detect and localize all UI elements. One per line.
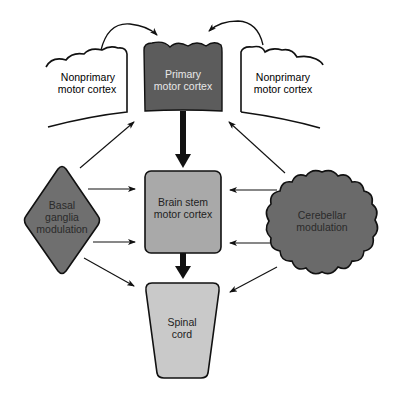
- brain-stem-label-2: motor cortex: [154, 208, 213, 220]
- node-cerebellar: Cerebellar modulation: [266, 171, 377, 274]
- nonprimary-left-label-1: Nonprimary: [61, 71, 116, 83]
- basal-ganglia-label-2: ganglia: [45, 211, 79, 223]
- cerebellar-label-2: modulation: [296, 221, 348, 233]
- motor-system-diagram: Nonprimary motor cortex Nonprimary motor…: [0, 0, 399, 400]
- primary-label-1: Primary: [165, 68, 202, 80]
- node-basal-ganglia: Basal ganglia modulation: [25, 167, 100, 274]
- nonprimary-left-label-2: motor cortex: [58, 83, 117, 95]
- spinal-cord-label-2: cord: [172, 328, 193, 340]
- primary-label-2: motor cortex: [154, 80, 213, 92]
- brain-stem-label-1: Brain stem: [158, 196, 208, 208]
- arrow-cerebellar-to-spinal: [230, 267, 277, 292]
- arrow-basal-to-primary: [80, 122, 134, 168]
- node-nonprimary-left: Nonprimary motor cortex: [46, 47, 127, 127]
- nonprimary-right-label-2: motor cortex: [254, 83, 313, 95]
- arrow-primary-to-brainstem: [175, 111, 191, 168]
- cerebellar-label-1: Cerebellar: [298, 209, 347, 221]
- node-primary-motor-cortex: Primary motor cortex: [144, 42, 222, 111]
- arrow-cerebellar-to-primary: [229, 122, 285, 173]
- nonprimary-right-bottom: [241, 112, 320, 128]
- nonprimary-right-label-1: Nonprimary: [256, 71, 311, 83]
- diagram-canvas: Nonprimary motor cortex Nonprimary motor…: [0, 0, 399, 400]
- node-nonprimary-right: Nonprimary motor cortex: [241, 47, 323, 128]
- spinal-cord-label-1: Spinal: [167, 316, 196, 328]
- node-spinal-cord: Spinal cord: [146, 283, 219, 378]
- arrow-basal-to-spinal: [84, 258, 134, 286]
- arrow-nonprimary-right-to-primary: [209, 21, 263, 45]
- basal-ganglia-label-1: Basal: [49, 199, 75, 211]
- basal-ganglia-label-3: modulation: [36, 223, 88, 235]
- arrow-brainstem-to-spinal: [175, 253, 191, 279]
- node-brain-stem: Brain stem motor cortex: [145, 171, 221, 253]
